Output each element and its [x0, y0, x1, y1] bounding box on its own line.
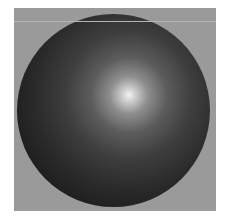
- render-viewport: [14, 8, 216, 211]
- horizon-line: [14, 21, 216, 22]
- shaded-sphere: [17, 14, 210, 207]
